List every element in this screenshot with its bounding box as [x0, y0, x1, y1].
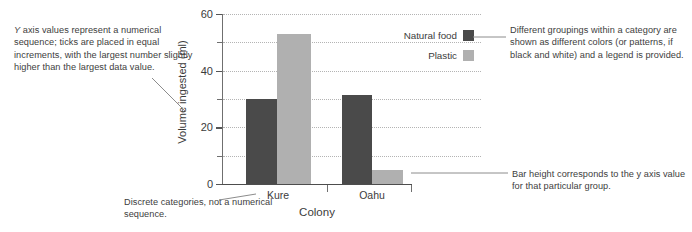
y-tick-label-40: 40	[201, 65, 213, 77]
legend-label-natural-food: Natural food	[404, 30, 457, 41]
legend-item-plastic: Plastic	[394, 48, 474, 63]
x-tick-end	[411, 185, 412, 192]
legend-label-plastic: Plastic	[428, 50, 457, 61]
legend-item-natural-food: Natural food	[394, 28, 474, 43]
y-tick-label-20: 20	[201, 121, 213, 133]
chart-legend: Natural food Plastic	[394, 28, 474, 68]
legend-swatch-plastic	[463, 50, 474, 61]
y-axis-title: Volume ingested (ml)	[176, 22, 188, 162]
y-tick-20	[216, 127, 222, 128]
bar-oahu-natural-food	[342, 95, 372, 184]
x-tick-separator	[327, 185, 328, 192]
bar-kure-natural-food	[246, 99, 277, 184]
bar-kure-plastic	[277, 34, 311, 184]
y-tick-10	[217, 156, 222, 157]
bar-chart-figure: Y axis values represent a numerical sequ…	[0, 0, 692, 232]
y-tick-60	[216, 14, 222, 15]
x-axis-title: Colony	[222, 206, 412, 218]
y-tick-label-0: 0	[207, 178, 213, 190]
bar-oahu-plastic	[372, 170, 403, 184]
legend-swatch-natural-food	[463, 30, 474, 41]
y-tick-50	[217, 42, 222, 43]
x-category-label-oahu: Oahu	[359, 189, 385, 201]
annotation-legend-note: Different groupings within a category ar…	[510, 24, 686, 61]
annotation-y-axis-note: Y axis values represent a numerical sequ…	[14, 24, 200, 74]
y-tick-40	[216, 71, 222, 72]
gridline-40	[223, 71, 481, 72]
y-tick-0	[216, 184, 222, 185]
x-axis-line	[222, 184, 412, 185]
plot-area: 60 40 20 0	[222, 14, 400, 184]
y-tick-30	[217, 99, 222, 100]
annotation-bar-height-note: Bar height corresponds to the y axis val…	[512, 168, 688, 193]
y-axis-line	[222, 14, 223, 185]
y-tick-label-60: 60	[201, 8, 213, 20]
x-category-label-kure: Kure	[267, 189, 289, 201]
annotation-y-axis-note-rest: axis values represent a numerical sequen…	[14, 25, 192, 72]
gridline-60	[223, 14, 481, 15]
